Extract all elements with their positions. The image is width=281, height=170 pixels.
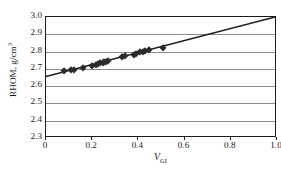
y-tick-label: 2.6	[18, 81, 42, 90]
y-axis-label-superscript: 3	[6, 43, 13, 46]
x-tick-label: 1.0	[261, 141, 281, 150]
x-axis-label-subscript: GI	[160, 157, 167, 164]
x-axis-label: VGI	[45, 151, 276, 164]
x-tick-label: 0.4	[122, 141, 152, 150]
y-axis-label-text: RHOM, g/cm	[8, 46, 18, 97]
y-axis-label: RHOM, g/cm3	[3, 4, 17, 136]
data-layer	[46, 17, 275, 136]
x-tick-label: 0.8	[215, 141, 245, 150]
y-tick-label: 2.9	[18, 29, 42, 38]
plot-area	[45, 16, 276, 137]
y-tick-label: 3.0	[18, 11, 42, 20]
x-tick-label: 0	[30, 141, 60, 150]
chart-figure: RHOM, g/cm3 2.32.42.52.62.72.82.93.0 00.…	[0, 0, 281, 170]
y-tick-label: 2.8	[18, 46, 42, 55]
y-tick-label: 2.7	[18, 63, 42, 72]
y-tick-label: 2.4	[18, 115, 42, 124]
y-tick-label: 2.5	[18, 98, 42, 107]
x-tick-label: 0.2	[76, 141, 106, 150]
y-axis-tick-labels: 2.32.42.52.62.72.82.93.0	[18, 14, 44, 139]
x-tick-label: 0.6	[169, 141, 199, 150]
